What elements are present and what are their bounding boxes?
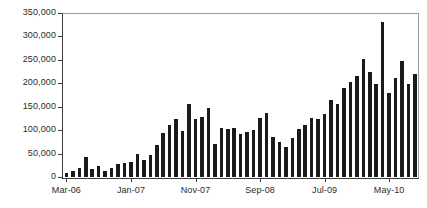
bar bbox=[291, 138, 295, 177]
bar bbox=[303, 125, 307, 177]
bar bbox=[226, 129, 230, 177]
x-axis-tick-mark bbox=[196, 178, 197, 182]
bar bbox=[349, 82, 353, 177]
x-axis-tick-label: Jul-09 bbox=[312, 185, 337, 195]
bar bbox=[232, 128, 236, 177]
bar bbox=[407, 84, 411, 177]
bar bbox=[155, 145, 159, 177]
bar bbox=[252, 130, 256, 177]
bar bbox=[149, 155, 153, 177]
bar bbox=[200, 117, 204, 177]
bar bbox=[142, 160, 146, 177]
bar bbox=[239, 134, 243, 177]
x-axis-tick-label: May-10 bbox=[374, 185, 405, 195]
bar bbox=[323, 114, 327, 177]
bar bbox=[245, 132, 249, 177]
bar bbox=[136, 154, 140, 177]
bar bbox=[310, 118, 314, 177]
bar bbox=[116, 164, 120, 177]
bar bbox=[207, 108, 211, 177]
bar bbox=[71, 171, 75, 177]
bar bbox=[194, 119, 198, 177]
bar bbox=[400, 61, 404, 177]
bar bbox=[97, 166, 101, 177]
x-axis-tick-mark bbox=[389, 178, 390, 182]
bar bbox=[103, 171, 107, 177]
bar bbox=[381, 22, 385, 177]
bar bbox=[336, 104, 340, 177]
bar bbox=[181, 131, 185, 177]
x-axis-tick-label: Mar-06 bbox=[52, 185, 81, 195]
bar bbox=[284, 147, 288, 177]
bar bbox=[265, 113, 269, 177]
x-axis-tick-label: Sep-08 bbox=[245, 185, 275, 195]
x-axis-tick-mark bbox=[325, 178, 326, 182]
bar bbox=[110, 168, 114, 177]
bar bbox=[213, 144, 217, 177]
bar bbox=[394, 78, 398, 177]
bars-layer bbox=[62, 13, 417, 177]
bar bbox=[123, 163, 127, 177]
bar bbox=[413, 74, 417, 177]
x-axis-tick-mark bbox=[131, 178, 132, 182]
bar bbox=[161, 133, 165, 178]
bar bbox=[329, 100, 333, 177]
bar bbox=[387, 93, 391, 177]
bar bbox=[258, 118, 262, 177]
bar bbox=[90, 169, 94, 177]
bar bbox=[187, 104, 191, 177]
bar bbox=[65, 173, 69, 177]
bar bbox=[271, 137, 275, 177]
bar bbox=[342, 88, 346, 177]
bar bbox=[316, 119, 320, 177]
bar bbox=[220, 128, 224, 177]
bar bbox=[168, 125, 172, 177]
x-axis-tick-label: Nov-07 bbox=[181, 185, 211, 195]
bar bbox=[129, 162, 133, 177]
bar bbox=[368, 72, 372, 177]
bar bbox=[278, 142, 282, 177]
bar-chart: 050,000100,000150,000200,000250,000300,0… bbox=[0, 0, 427, 208]
bar bbox=[355, 76, 359, 177]
bar bbox=[78, 168, 82, 177]
bar bbox=[374, 84, 378, 177]
x-axis-tick-label: Jan-07 bbox=[117, 185, 145, 195]
bar bbox=[362, 59, 366, 177]
bar bbox=[297, 129, 301, 177]
bar bbox=[174, 119, 178, 177]
bar bbox=[84, 157, 88, 177]
x-axis-tick-mark bbox=[260, 178, 261, 182]
x-axis-tick-mark bbox=[66, 178, 67, 182]
